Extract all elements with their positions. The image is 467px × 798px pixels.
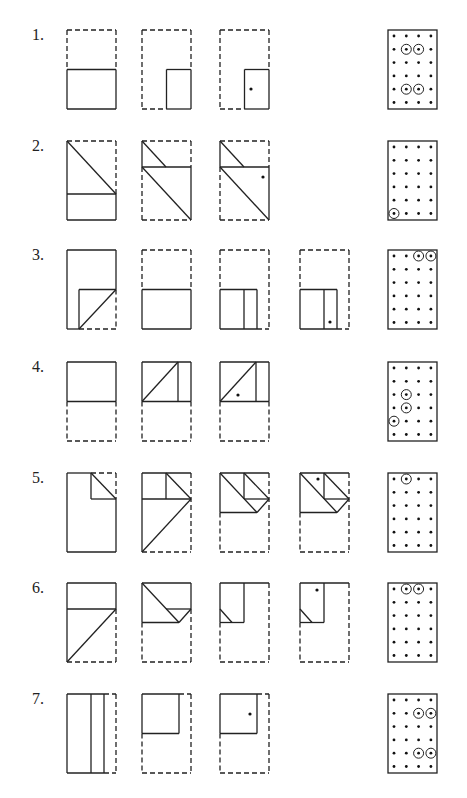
grid-dot bbox=[405, 255, 408, 258]
problem-number: 1. bbox=[32, 26, 44, 44]
grid-dot bbox=[405, 295, 408, 298]
grid-dot bbox=[430, 614, 433, 617]
grid-dot bbox=[430, 255, 433, 258]
grid-dot bbox=[417, 199, 420, 202]
grid-dot bbox=[417, 48, 420, 51]
grid-dot bbox=[430, 199, 433, 202]
grid-dot bbox=[393, 308, 396, 311]
grid-dot bbox=[405, 614, 408, 617]
grid-dot bbox=[430, 752, 433, 755]
grid-dot bbox=[393, 268, 396, 271]
grid-dot bbox=[430, 101, 433, 104]
grid-dot bbox=[430, 739, 433, 742]
grid-dot bbox=[430, 281, 433, 284]
grid-dot bbox=[417, 641, 420, 644]
grid-dot bbox=[393, 628, 396, 631]
answer-grid bbox=[386, 471, 439, 554]
punch-hole bbox=[261, 175, 264, 178]
fold-step-1 bbox=[66, 693, 117, 774]
grid-dot bbox=[430, 186, 433, 189]
grid-dot bbox=[417, 420, 420, 423]
grid-dot bbox=[393, 199, 396, 202]
grid-dot bbox=[393, 478, 396, 481]
grid-dot bbox=[405, 433, 408, 436]
grid-dot bbox=[393, 739, 396, 742]
grid-dot bbox=[430, 48, 433, 51]
grid-dot bbox=[430, 588, 433, 591]
grid-dot bbox=[405, 420, 408, 423]
grid-dot bbox=[430, 544, 433, 547]
grid-dot bbox=[417, 588, 420, 591]
grid-dot bbox=[417, 35, 420, 38]
grid-dot bbox=[430, 268, 433, 271]
grid-dot bbox=[393, 367, 396, 370]
grid-dot bbox=[430, 765, 433, 768]
grid-dot bbox=[393, 61, 396, 64]
grid-dot bbox=[393, 531, 396, 534]
grid-dot bbox=[393, 295, 396, 298]
grid-dot bbox=[430, 628, 433, 631]
grid-dot bbox=[430, 61, 433, 64]
grid-dot bbox=[393, 75, 396, 78]
grid-dot bbox=[393, 101, 396, 104]
punch-hole bbox=[236, 393, 239, 396]
grid-dot bbox=[393, 518, 396, 521]
grid-dot bbox=[405, 75, 408, 78]
grid-dot bbox=[405, 407, 408, 410]
grid-dot bbox=[430, 172, 433, 175]
grid-dot bbox=[405, 367, 408, 370]
fold-step-4 bbox=[299, 249, 350, 330]
grid-dot bbox=[430, 654, 433, 657]
punch-hole bbox=[316, 477, 319, 480]
grid-dot bbox=[393, 654, 396, 657]
grid-dot bbox=[430, 146, 433, 149]
fold-step-2 bbox=[141, 249, 192, 330]
grid-dot bbox=[393, 48, 396, 51]
fold-step-1 bbox=[66, 29, 117, 110]
grid-dot bbox=[405, 281, 408, 284]
grid-dot bbox=[417, 739, 420, 742]
grid-dot bbox=[430, 641, 433, 644]
grid-dot bbox=[405, 61, 408, 64]
grid-dot bbox=[405, 588, 408, 591]
fold-step-2 bbox=[141, 693, 192, 774]
grid-dot bbox=[393, 255, 396, 258]
grid-dot bbox=[393, 420, 396, 423]
fold-step-2 bbox=[141, 472, 192, 553]
grid-dot bbox=[405, 35, 408, 38]
grid-dot bbox=[405, 101, 408, 104]
grid-dot bbox=[430, 321, 433, 324]
grid-dot bbox=[430, 75, 433, 78]
grid-dot bbox=[417, 393, 420, 396]
grid-dot bbox=[430, 295, 433, 298]
grid-dot bbox=[405, 739, 408, 742]
grid-dot bbox=[430, 518, 433, 521]
fold-step-3 bbox=[219, 29, 270, 110]
grid-dot bbox=[417, 295, 420, 298]
grid-dot bbox=[430, 531, 433, 534]
grid-dot bbox=[417, 268, 420, 271]
grid-dot bbox=[430, 504, 433, 507]
grid-dot bbox=[405, 159, 408, 162]
problem-number: 4. bbox=[32, 358, 44, 376]
grid-dot bbox=[393, 172, 396, 175]
grid-dot bbox=[430, 367, 433, 370]
grid-dot bbox=[417, 699, 420, 702]
grid-dot bbox=[417, 712, 420, 715]
fold-step-1 bbox=[66, 472, 117, 553]
grid-dot bbox=[393, 407, 396, 410]
grid-dot bbox=[430, 35, 433, 38]
grid-dot bbox=[405, 544, 408, 547]
grid-dot bbox=[430, 699, 433, 702]
problem-number: 7. bbox=[32, 690, 44, 708]
grid-dot bbox=[430, 380, 433, 383]
grid-dot bbox=[405, 393, 408, 396]
grid-dot bbox=[430, 491, 433, 494]
grid-dot bbox=[417, 654, 420, 657]
grid-dot bbox=[417, 725, 420, 728]
grid-dot bbox=[430, 88, 433, 91]
grid-dot bbox=[393, 491, 396, 494]
grid-dot bbox=[393, 186, 396, 189]
grid-dot bbox=[430, 159, 433, 162]
answer-grid bbox=[386, 692, 439, 775]
